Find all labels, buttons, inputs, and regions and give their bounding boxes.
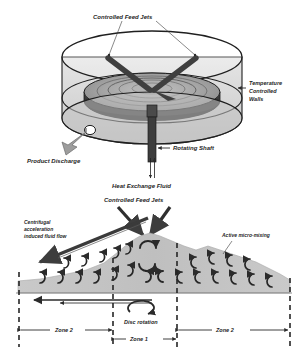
label-centrifugal-line1: Centrifugal [24,219,51,225]
label-temperature-walls-line3: Walls [249,96,263,102]
feed-jets-leader-dot-right [194,54,196,56]
label-temperature-walls-line2: Controlled [249,88,277,94]
shaft-coupling [147,105,157,117]
label-heat-exchange-fluid: Heat Exchange Fluid [112,183,171,189]
label-centrifugal-line3: induced fluid flow [24,233,68,239]
label-controlled-feed-jets-bottom: Controlled Feed Jets [104,197,164,203]
feed-jets-leader-dot-left [108,54,110,56]
label-active-micro-mixing: Active micro-mixing [221,232,270,238]
label-zone-left: Zone 2 [54,327,73,333]
label-zone-center: Zone 1 [129,336,148,342]
label-zone-right: Zone 2 [215,327,234,333]
label-centrifugal-line2: acceleration [24,226,53,232]
label-temperature-walls-line1: Temperature [249,80,282,86]
rotating-shaft [148,117,156,162]
figure-root: Controlled Feed Jets Temperature Control… [0,0,303,364]
label-disc-rotation: Disc rotation [124,319,158,325]
label-product-discharge: Product Discharge [27,158,81,164]
label-rotating-shaft: Rotating Shaft [173,145,215,151]
label-controlled-feed-jets-top: Controlled Feed Jets [93,14,153,20]
